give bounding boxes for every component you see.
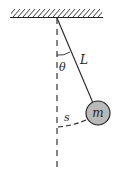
angle-label: θ xyxy=(59,61,66,74)
angle-arc xyxy=(57,52,70,55)
mass-label: m xyxy=(92,106,103,120)
ceiling-support xyxy=(8,9,105,18)
arc-length-path xyxy=(58,120,86,127)
length-label: L xyxy=(79,53,88,67)
arc-length-label: s xyxy=(64,111,70,124)
pendulum-diagram: θ L s m xyxy=(0,0,118,169)
